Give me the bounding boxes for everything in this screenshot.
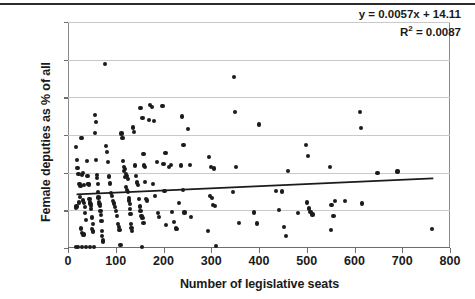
r-squared-line: R2 = 0.0087 (359, 24, 461, 42)
y-axis-title: Female deputies as % of all (39, 32, 53, 252)
x-axis-title: Number of legislative seats (68, 277, 451, 291)
x-tick-mark (211, 248, 212, 253)
regression-trendline (77, 178, 434, 194)
regression-annotation: y = 0.0057x + 14.11 R2 = 0.0087 (359, 6, 461, 42)
x-tick-mark (450, 248, 451, 253)
trendline-svg (68, 22, 450, 248)
x-tick-label: 800 (420, 255, 475, 268)
r-squared-value: = 0.0087 (413, 26, 461, 38)
x-tick-mark (68, 248, 69, 253)
x-tick-mark (164, 248, 165, 253)
regression-equation: y = 0.0057x + 14.11 (359, 6, 461, 24)
plot-area: 0.010.020.030.040.050.060.0 010020030040… (68, 22, 450, 248)
top-divider-rule (0, 3, 475, 5)
x-tick-mark (259, 248, 260, 253)
x-tick-mark (116, 248, 117, 253)
x-tick-mark (355, 248, 356, 253)
x-tick-mark (402, 248, 403, 253)
scatter-plot-figure: Female deputies as % of all Number of le… (0, 0, 475, 299)
x-tick-mark (307, 248, 308, 253)
